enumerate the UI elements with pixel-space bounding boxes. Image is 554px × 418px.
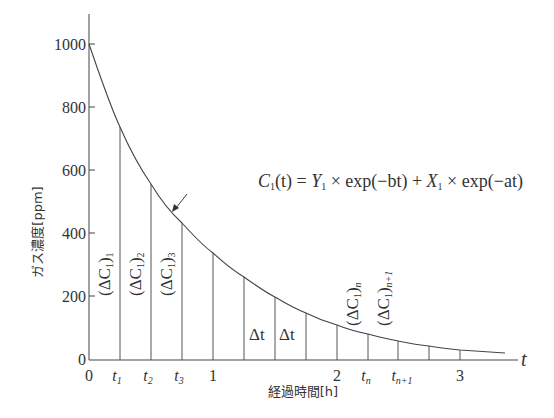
x-tick-t3: t3	[174, 367, 183, 386]
x-tick-t1: t1	[112, 367, 121, 386]
y-tick-200: 200	[62, 288, 86, 305]
delta-c3-label: (ΔC1)3	[157, 252, 177, 296]
y-tick-1000: 1000	[54, 36, 86, 53]
y-axis-label: ガス濃度[ppm]	[30, 186, 45, 277]
x-axis-label: 経過時間[h]	[268, 384, 338, 399]
x-tick-2: 2	[333, 367, 341, 384]
y-tick-600: 600	[62, 162, 86, 179]
y-tick-labels: 1000 800 600 400 200 0	[54, 36, 86, 368]
y-tick-0: 0	[78, 351, 86, 368]
decay-chart: 1000 800 600 400 200 0 ガス濃度[ppm] 0 t1 t2…	[0, 0, 554, 418]
t-axis-symbol: t	[521, 348, 527, 370]
x-tick-t2: t2	[143, 367, 152, 386]
x-tick-1: 1	[209, 367, 217, 384]
x-tick-0: 0	[85, 367, 93, 384]
delta-t-label-1: Δt	[249, 325, 265, 344]
delta-cn-label: (ΔC1)n	[343, 282, 363, 326]
x-tick-tn: tn	[361, 367, 370, 386]
x-tick-tn1: tn+1	[391, 367, 412, 386]
y-tick-400: 400	[62, 225, 86, 242]
x-tick-3: 3	[456, 367, 464, 384]
y-tick-800: 800	[62, 99, 86, 116]
delta-c1-label: (ΔC1)1	[95, 252, 115, 296]
delta-cn1-label: (ΔC1)n+1	[374, 271, 394, 326]
formula-label: C1(t) = Y1 × exp(−bt) + X1 × exp(−at)	[258, 171, 523, 192]
formula-leader-line	[176, 194, 187, 208]
delta-t-label-2: Δt	[279, 325, 295, 344]
delta-c2-label: (ΔC1)2	[126, 252, 146, 296]
